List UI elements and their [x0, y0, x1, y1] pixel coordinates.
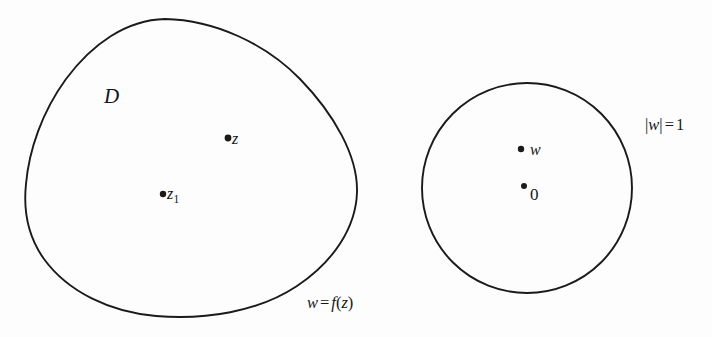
point-z1-label: z1 [167, 186, 179, 202]
point-w-label: w [530, 142, 541, 158]
figure-canvas: D z z1 w=f(z) w 0 |w|=1 [0, 0, 712, 337]
point-z-dot [225, 135, 232, 142]
point-z1-base: z [167, 185, 173, 202]
point-z1-dot [160, 191, 166, 197]
mapping-operator: = [318, 293, 331, 312]
diagram-svg [0, 0, 712, 337]
unit-circle-boundary [422, 83, 632, 293]
modulus-operator: = [663, 115, 676, 134]
modulus-variable: w [648, 115, 659, 134]
mapping-close-paren: ) [348, 293, 354, 312]
point-z-label: z [232, 131, 238, 147]
point-origin-dot [521, 183, 527, 189]
point-origin-label: 0 [530, 186, 539, 203]
point-z1-subscript: 1 [174, 193, 180, 205]
point-w-dot [518, 146, 524, 152]
domain-boundary-curve [25, 19, 357, 317]
mapping-lhs: w [307, 293, 318, 312]
domain-label: D [104, 86, 119, 107]
mapping-function-label: w=f(z) [307, 295, 353, 312]
unit-circle-label: |w|=1 [645, 117, 684, 134]
modulus-value: 1 [676, 115, 684, 134]
